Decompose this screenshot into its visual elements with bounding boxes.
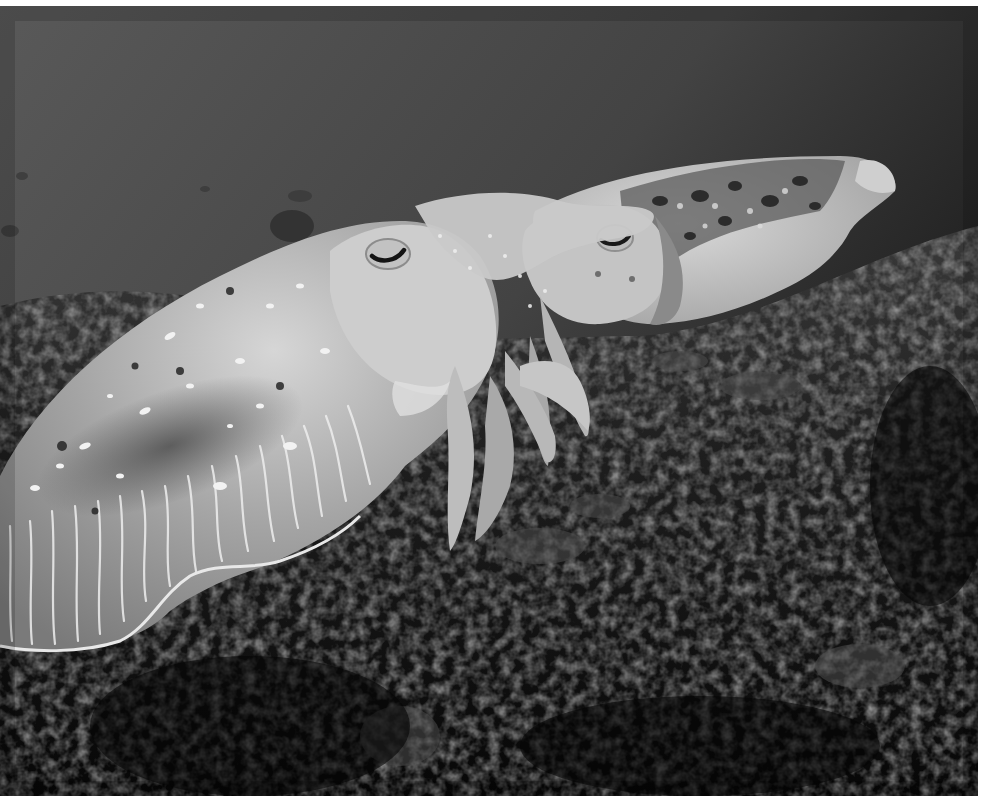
front-eye bbox=[366, 239, 410, 269]
cuttlefish-scene bbox=[0, 6, 978, 796]
photo-cuttlefish bbox=[0, 6, 978, 796]
